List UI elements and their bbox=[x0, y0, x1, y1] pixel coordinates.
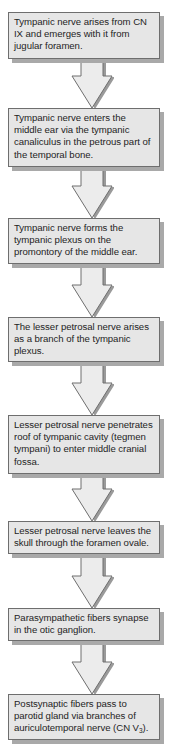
step-7-text: Parasympathetic fibers synapse in the ot… bbox=[14, 612, 148, 635]
step-6-box: Lesser petrosal nerve leaves the skull t… bbox=[8, 521, 160, 554]
down-arrow-icon bbox=[70, 640, 114, 696]
step-2-text: Tympanic nerve enters the middle ear via… bbox=[14, 112, 150, 160]
step-3-text: Tympanic nerve forms the tympanic plexus… bbox=[14, 222, 137, 257]
flowchart: Tympanic nerve arises from CN IX and eme… bbox=[0, 0, 177, 747]
step-8-box: Postsynaptic fibers pass to parotid glan… bbox=[8, 694, 160, 740]
down-arrow-icon bbox=[70, 58, 114, 110]
step-6-text: Lesser petrosal nerve leaves the skull t… bbox=[14, 525, 151, 548]
step-1-box: Tympanic nerve arises from CN IX and eme… bbox=[8, 12, 160, 59]
step-3-box: Tympanic nerve forms the tympanic plexus… bbox=[8, 218, 160, 264]
step-4-text: The lesser petrosal nerve arises as a br… bbox=[14, 321, 149, 356]
step-8-text: Postsynaptic fibers pass to parotid glan… bbox=[14, 698, 139, 733]
step-5-box: Lesser petrosal nerve penetrates roof of… bbox=[8, 415, 160, 474]
down-arrow-icon bbox=[70, 553, 114, 610]
step-8-text-end: ). bbox=[143, 722, 149, 733]
down-arrow-icon bbox=[70, 263, 114, 319]
step-2-box: Tympanic nerve enters the middle ear via… bbox=[8, 108, 160, 167]
down-arrow-icon bbox=[70, 361, 114, 417]
step-1-text: Tympanic nerve arises from CN IX and eme… bbox=[14, 16, 147, 51]
step-5-text: Lesser petrosal nerve penetrates roof of… bbox=[14, 419, 153, 467]
step-4-box: The lesser petrosal nerve arises as a br… bbox=[8, 317, 160, 362]
step-7-box: Parasympathetic fibers synapse in the ot… bbox=[8, 608, 160, 641]
down-arrow-icon bbox=[70, 166, 114, 220]
down-arrow-icon bbox=[70, 473, 114, 523]
